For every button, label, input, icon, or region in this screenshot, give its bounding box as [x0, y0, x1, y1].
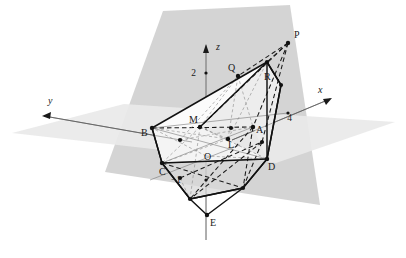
point-dot-P — [286, 41, 290, 45]
dot-lower-mid — [188, 197, 192, 201]
dot-right-lower — [260, 140, 264, 144]
point-label-E: E — [210, 217, 216, 228]
tick-z-2-label: 2 — [191, 68, 196, 78]
point-label-R: R — [264, 71, 271, 82]
point-label-M: M — [189, 114, 198, 125]
geometry-figure: PQRMABLOCDE xyz 2−14 — [0, 0, 406, 258]
edge-to-E — [190, 199, 207, 215]
point-dot-Q — [236, 74, 240, 78]
tick-x-4-label: 4 — [287, 113, 292, 123]
point-label-B: B — [141, 127, 148, 138]
point-label-P: P — [294, 29, 300, 40]
point-label-Q: Q — [228, 62, 236, 73]
tick-z-2-mark — [204, 71, 207, 74]
point-label-O: O — [204, 151, 211, 162]
point-dot-M — [198, 125, 202, 129]
dot-right-upper — [279, 83, 283, 87]
dot-upper-apex — [265, 60, 269, 64]
y-axis-arrowhead — [42, 112, 51, 119]
dot-on-axis — [229, 126, 233, 130]
point-label-D: D — [268, 161, 275, 172]
diagram-canvas: PQRMABLOCDE xyz 2−14 — [0, 0, 406, 258]
point-label-A: A — [256, 124, 264, 135]
y-axis-label: y — [47, 95, 53, 106]
point-dot-C — [160, 161, 164, 165]
tick-z-minus1-label: −1 — [171, 175, 181, 185]
point-label-L: L — [228, 139, 234, 150]
dot-mid-b — [178, 138, 182, 142]
point-label-C: C — [159, 166, 166, 177]
x-axis-arrowhead — [323, 98, 332, 105]
point-dot-A — [251, 125, 255, 129]
dot-lower-right — [241, 186, 245, 190]
tick-z-minus1-mark — [204, 178, 207, 181]
point-dot-E — [205, 213, 209, 217]
x-axis-label: x — [317, 84, 323, 95]
point-dot-B — [150, 126, 154, 130]
z-axis-label: z — [215, 41, 220, 52]
